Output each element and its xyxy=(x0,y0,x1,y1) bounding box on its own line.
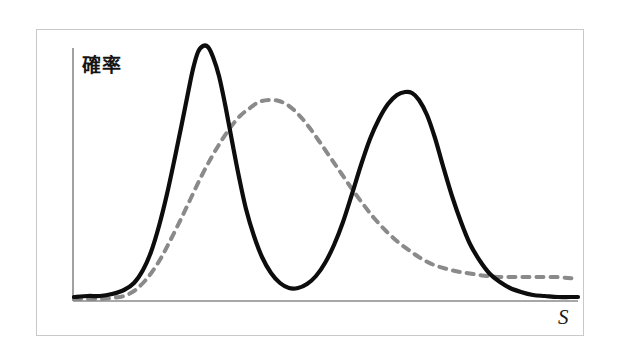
series-group xyxy=(74,45,578,299)
dashed-unimodal-curve xyxy=(74,100,578,299)
y-axis-label: 確率 xyxy=(82,50,122,77)
solid-bimodal-curve xyxy=(74,45,578,297)
figure-root: 確率 S xyxy=(0,0,621,356)
x-axis-label: S xyxy=(558,305,569,330)
